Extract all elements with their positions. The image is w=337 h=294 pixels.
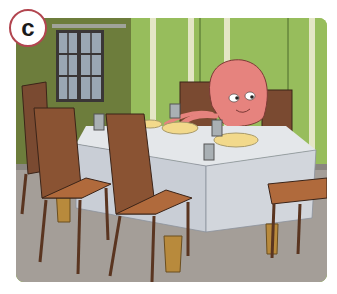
dining-scene-illustration [16,18,327,282]
illustration-frame [16,18,327,282]
badge-letter: c [21,16,34,40]
label-badge: c [9,9,47,47]
